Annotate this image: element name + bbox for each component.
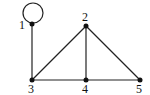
node-label-3: 3 xyxy=(28,82,34,95)
node-label-1: 1 xyxy=(19,18,25,32)
node-label-4: 4 xyxy=(82,82,88,95)
edge-2-5 xyxy=(86,26,140,80)
node-2 xyxy=(84,24,89,29)
node-label-5: 5 xyxy=(136,82,142,95)
node-label-2: 2 xyxy=(82,10,88,24)
node-1 xyxy=(30,22,35,27)
edge-3-2 xyxy=(32,26,86,80)
self-loop-node-1 xyxy=(23,3,43,23)
graph-diagram: 1 2 3 4 5 xyxy=(0,0,150,95)
